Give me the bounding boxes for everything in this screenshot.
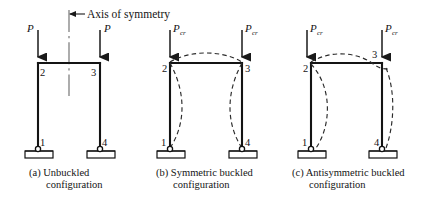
pin-support-icon [379, 146, 384, 151]
panel-a-node-4-label: 4 [102, 137, 108, 148]
panel-c-node-2-label: 2 [303, 63, 308, 74]
panel-c-node-1-label: 1 [302, 137, 307, 148]
panel-c-caption-line1: (c) Antisymmetric buckled [292, 167, 405, 179]
panel-b-caption-line1: (b) Symmetric buckled [156, 167, 254, 179]
panel-b-right-load-label: P [244, 22, 252, 34]
pin-support-icon [239, 146, 244, 151]
panel-c-node-3-label: 3 [372, 49, 377, 60]
panel-c-right-load-subscript: cr [392, 29, 398, 37]
panel-b-node-1-label: 1 [161, 137, 166, 148]
panel-a-left-load-label: P [26, 22, 34, 34]
panel-b-right-load-subscript: cr [252, 29, 258, 37]
axis-of-symmetry-label: Axis of symmetry [87, 8, 170, 21]
panel-c-left-load-subscript: cr [317, 29, 323, 37]
panel-a-node-3-label: 3 [91, 67, 96, 78]
pin-support-icon [308, 146, 313, 151]
pin-support-icon [35, 146, 40, 151]
panel-b-left-load-label: P [172, 22, 180, 34]
panel-b-caption-line2: configuration [173, 179, 230, 190]
panel-a-right-load-label: P [103, 22, 111, 34]
pin-support-icon [97, 146, 102, 151]
panel-a-caption-line2: configuration [46, 179, 103, 190]
panel-a-node-2-label: 2 [40, 67, 45, 78]
panel-c-caption-line2: configuration [309, 179, 366, 190]
panel-c-left-load-label: P [309, 22, 317, 34]
panel-a-node-1-label: 1 [40, 137, 45, 148]
panel-b-node-2-label: 2 [162, 63, 167, 74]
panel-b-left-load-subscript: cr [180, 29, 186, 37]
panel-a-caption-line1: (a) Unbuckled [29, 167, 90, 179]
panel-c-right-load-label: P [384, 22, 392, 34]
pin-support-icon [167, 146, 172, 151]
buckling-figure: Axis of symmetry P P 2 3 1 4 [0, 0, 421, 203]
panel-c-node-4-label: 4 [374, 137, 380, 148]
panel-b-node-3-label: 3 [245, 63, 250, 74]
panel-b-node-4-label: 4 [245, 137, 251, 148]
